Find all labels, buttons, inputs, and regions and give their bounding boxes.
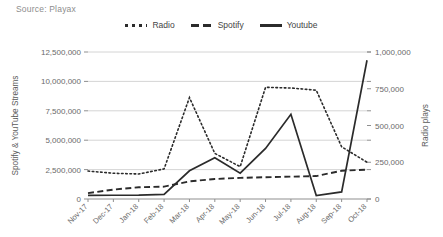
gridlines	[84, 52, 371, 199]
x-tick-label: Jul-18	[271, 202, 292, 223]
y2-axis-tick-labels: 0250,000500,000750,0001,000,000	[375, 48, 411, 204]
line-chart: 02,500,0005,000,0007,500,00010,000,00012…	[0, 0, 443, 237]
x-axis-tick-labels: Nov-17Dec-17Jan-18Feb-18Mar-18Apr-18May-…	[66, 199, 369, 226]
y2-tick-label: 1,000,000	[375, 48, 411, 57]
y-tick-label: 0	[77, 195, 82, 204]
y-tick-label: 7,500,000	[45, 107, 81, 116]
y2-tick-label: 0	[375, 195, 380, 204]
x-tick-label: Nov-17	[66, 202, 90, 226]
series-line-radio	[88, 87, 367, 174]
x-tick-label: Jun-18	[244, 202, 267, 225]
data-series-layer	[88, 60, 367, 195]
y-axis-title: Spotify & YouTube Streams	[11, 76, 20, 176]
y-axis-tick-labels: 02,500,0005,000,0007,500,00010,000,00012…	[41, 48, 82, 204]
y2-tick-label: 500,000	[375, 122, 404, 131]
chart-area: 02,500,0005,000,0007,500,00010,000,00012…	[0, 0, 443, 237]
y-tick-label: 5,000,000	[45, 136, 81, 145]
x-tick-label: Feb-18	[142, 202, 165, 225]
x-tick-label: Sep-18	[319, 202, 343, 226]
y2-tick-label: 750,000	[375, 85, 404, 94]
y-tick-label: 2,500,000	[45, 166, 81, 175]
x-tick-label: Jan-18	[117, 202, 140, 225]
x-tick-label: May-18	[217, 202, 241, 226]
y2-axis-title: Radio plays	[421, 104, 430, 147]
y-tick-label: 12,500,000	[41, 48, 82, 57]
x-tick-label: Oct-18	[346, 202, 368, 224]
x-tick-label: Aug-18	[294, 202, 318, 226]
x-tick-label: Mar-18	[167, 202, 190, 225]
y-tick-label: 10,000,000	[41, 77, 82, 86]
y2-tick-label: 250,000	[375, 158, 404, 167]
x-tick-label: Dec-17	[91, 202, 115, 226]
x-tick-label: Apr-18	[194, 202, 216, 224]
